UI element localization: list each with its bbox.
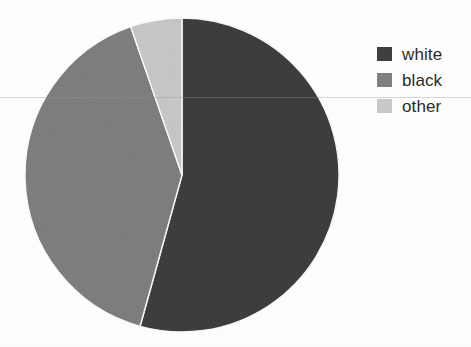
legend-label-black: black	[402, 72, 442, 89]
legend-item-black[interactable]: black	[377, 67, 471, 93]
legend-label-white: white	[402, 46, 442, 63]
legend: white black other	[377, 41, 471, 119]
legend-swatch-white-icon	[377, 47, 392, 61]
legend-item-other[interactable]: other	[377, 93, 471, 119]
pie-svg	[24, 17, 340, 333]
legend-label-other: other	[402, 98, 441, 115]
legend-swatch-other-icon	[377, 99, 392, 113]
legend-item-white[interactable]: white	[377, 41, 471, 67]
pie-chart-figure: white black other	[0, 0, 471, 347]
pie-plot-area	[24, 17, 340, 333]
legend-swatch-black-icon	[377, 73, 392, 87]
